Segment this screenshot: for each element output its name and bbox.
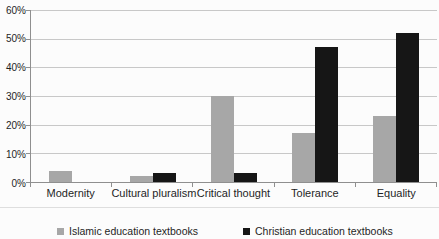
bar-islamic-equality [373, 116, 396, 182]
legend-label-christian: Christian education textbooks [255, 225, 393, 238]
islamic-series-swatch-icon [57, 228, 64, 235]
x-axis-labels: ModernityCultural pluralismCritical thou… [30, 187, 437, 200]
christian-series-swatch-icon [243, 228, 250, 235]
x-axis-category-label: Modernity [30, 187, 111, 200]
y-axis-tick [26, 67, 30, 68]
legend: Islamic education textbooks Christian ed… [0, 225, 439, 239]
bar-group-equality [356, 10, 437, 182]
bar-chart-figure: 0%10%20%30%40%50%60% ModernityCultural p… [0, 0, 439, 239]
x-axis-category-label: Critical thought [193, 187, 274, 200]
bar-christian-tolerance [315, 47, 338, 182]
x-axis-category-label: Equality [356, 187, 437, 200]
divider-line [0, 207, 439, 208]
bar-group-modernity [31, 10, 112, 182]
y-axis-tick [26, 10, 30, 11]
bar-christian-critical-thought [234, 173, 257, 182]
bar-islamic-tolerance [292, 133, 315, 182]
y-axis-tick-label: 30% [0, 91, 26, 102]
legend-item-christian: Christian education textbooks [243, 225, 393, 238]
y-axis-tick [26, 96, 30, 97]
y-axis-tick-label: 0% [0, 178, 26, 189]
bars-container [31, 10, 437, 182]
y-axis-tick-label: 40% [0, 62, 26, 73]
plot-area [30, 10, 437, 183]
y-axis-tick-label: 20% [0, 120, 26, 131]
y-axis-tick [26, 39, 30, 40]
legend-item-islamic: Islamic education textbooks [57, 225, 198, 238]
bar-islamic-critical-thought [211, 96, 234, 182]
bar-group-tolerance [275, 10, 356, 182]
bar-islamic-cultural-pluralism [130, 176, 153, 182]
bar-group-cultural-pluralism [112, 10, 193, 182]
y-axis-tick-label: 60% [0, 5, 26, 16]
bar-christian-equality [396, 33, 419, 182]
bar-islamic-modernity [49, 171, 72, 182]
y-axis-tick-label: 10% [0, 149, 26, 160]
y-axis-tick [26, 153, 30, 154]
y-axis-tick-label: 50% [0, 33, 26, 44]
y-axis-tick [26, 125, 30, 126]
x-axis-category-label: Tolerance [274, 187, 355, 200]
legend-label-islamic: Islamic education textbooks [69, 225, 198, 238]
x-axis-category-label: Cultural pluralism [111, 187, 192, 200]
bar-christian-cultural-pluralism [153, 173, 176, 182]
bar-group-critical-thought [193, 10, 274, 182]
